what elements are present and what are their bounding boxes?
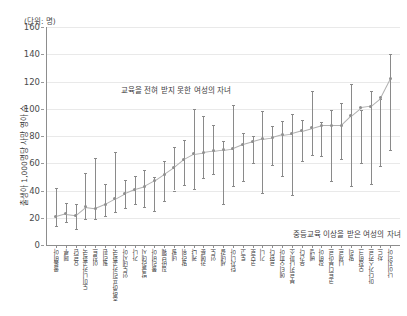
x-axis-label-18: 탄자니아 xyxy=(230,249,236,272)
range-cap-upper xyxy=(360,110,363,111)
range-bar xyxy=(243,133,244,181)
y-axis-line xyxy=(46,27,47,245)
x-tick-mark xyxy=(292,245,293,248)
data-point xyxy=(74,214,77,217)
x-tick-mark xyxy=(105,245,106,248)
x-tick-mark xyxy=(154,245,155,248)
range-cap-upper xyxy=(84,173,87,174)
range-cap-upper xyxy=(261,111,264,112)
range-cap-upper xyxy=(350,84,353,85)
range-cap-lower xyxy=(193,189,196,190)
y-tick-label-100: 100 xyxy=(0,105,40,114)
x-axis-label-24: 부르키나파소 xyxy=(289,249,295,284)
range-cap-lower xyxy=(330,181,333,182)
range-cap-lower xyxy=(104,216,107,217)
range-cap-lower xyxy=(202,178,205,179)
range-bar xyxy=(312,91,313,155)
data-point xyxy=(330,124,333,127)
x-axis-label-27: 잠비아 xyxy=(318,249,324,266)
y-tick-mark-40 xyxy=(41,191,44,192)
x-axis-label-26: 베냉 xyxy=(309,249,315,261)
range-cap-lower xyxy=(389,150,392,151)
x-axis-label-16: 인도 xyxy=(210,249,216,261)
range-bar xyxy=(351,84,352,186)
data-point xyxy=(369,105,372,108)
x-tick-mark xyxy=(213,245,214,248)
range-cap-lower xyxy=(212,174,215,175)
y-tick-mark-20 xyxy=(41,218,44,219)
range-bar xyxy=(233,105,234,187)
gridline-20 xyxy=(46,218,400,219)
x-axis-label-12: 네팔 xyxy=(171,249,177,261)
y-tick-mark-0 xyxy=(41,245,44,246)
data-point xyxy=(389,77,392,80)
range-cap-lower xyxy=(183,185,186,186)
x-tick-mark xyxy=(253,245,254,248)
gridline-100 xyxy=(46,109,400,110)
y-tick-mark-160 xyxy=(41,27,44,28)
data-point xyxy=(222,148,225,151)
x-tick-mark xyxy=(321,245,322,248)
range-cap-upper xyxy=(301,120,304,121)
range-bar xyxy=(56,188,57,226)
range-cap-upper xyxy=(311,91,314,92)
gridline-120 xyxy=(46,82,400,83)
x-axis-label-13: 말라위 xyxy=(181,249,187,266)
x-axis-label-32: 마다가스카르 xyxy=(368,249,374,284)
range-cap-upper xyxy=(65,203,68,204)
range-cap-lower xyxy=(242,181,245,182)
x-axis-label-2: 요르단 xyxy=(73,249,79,266)
x-axis-label-30: 말리 xyxy=(348,249,354,261)
range-cap-upper xyxy=(212,125,215,126)
range-cap-upper xyxy=(242,133,245,134)
range-cap-upper xyxy=(55,188,58,189)
range-cap-lower xyxy=(65,222,68,223)
x-axis-label-19: 토고 xyxy=(240,249,246,261)
x-axis-label-21: 기니 xyxy=(259,249,265,261)
range-bar xyxy=(321,122,322,156)
range-bar xyxy=(184,140,185,185)
x-axis-label-5: 필리핀 xyxy=(102,249,108,266)
x-tick-mark xyxy=(272,245,273,248)
x-tick-mark xyxy=(262,245,263,248)
range-cap-upper xyxy=(281,121,284,122)
annotation-no-education: 교육을 전혀 받지 못한 여성의 자녀 xyxy=(121,84,231,95)
range-cap-upper xyxy=(134,176,137,177)
x-axis-label-17: 세네갈 xyxy=(220,249,226,266)
y-tick-label-20: 20 xyxy=(0,214,40,223)
x-tick-mark xyxy=(85,245,86,248)
data-point xyxy=(281,133,284,136)
x-axis-label-34: 나이지리아 xyxy=(387,249,393,278)
data-point xyxy=(182,158,185,161)
data-point xyxy=(290,132,293,135)
range-cap-lower xyxy=(379,166,382,167)
range-cap-lower xyxy=(94,219,97,220)
y-tick-mark-120 xyxy=(41,82,44,83)
data-point xyxy=(123,192,126,195)
x-axis-labels: 콜롬비아페루요르단도미니카공화국이집트필리핀중앙아프리카공화국인도네시아가나방글… xyxy=(46,249,400,316)
data-point xyxy=(349,114,352,117)
gridline-80 xyxy=(46,136,400,137)
x-axis-label-7: 인도네시아 xyxy=(122,249,128,278)
range-cap-upper xyxy=(163,161,166,162)
range-cap-lower xyxy=(350,186,353,187)
range-cap-lower xyxy=(143,207,146,208)
y-tick-mark-80 xyxy=(41,136,44,137)
x-axis-label-3: 도미니카공화국 xyxy=(82,249,88,290)
x-axis-label-0: 콜롬비아 xyxy=(53,249,59,272)
range-cap-upper xyxy=(232,105,235,106)
x-tick-mark xyxy=(282,245,283,248)
gridline-160 xyxy=(46,27,400,28)
range-cap-lower xyxy=(173,191,176,192)
y-tick-mark-140 xyxy=(41,54,44,55)
data-point xyxy=(231,147,234,150)
data-point xyxy=(133,188,136,191)
y-tick-label-120: 120 xyxy=(0,78,40,87)
x-tick-mark xyxy=(135,245,136,248)
gridline-140 xyxy=(46,54,400,55)
x-tick-mark xyxy=(331,245,332,248)
y-tick-label-80: 80 xyxy=(0,132,40,141)
x-axis-label-29: 니제르 xyxy=(338,249,344,266)
data-point xyxy=(104,203,107,206)
range-cap-lower xyxy=(124,208,127,209)
